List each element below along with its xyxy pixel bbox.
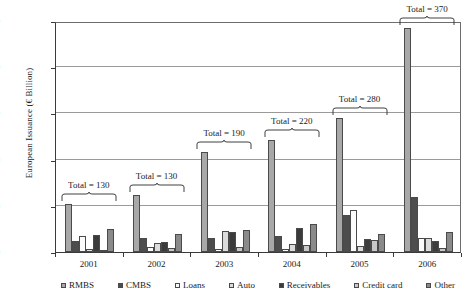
bar-2005-cmbs[interactable] xyxy=(343,215,350,252)
x-tick-mark-1 xyxy=(123,253,124,257)
legend-item-rmbs[interactable]: RMBS xyxy=(61,280,94,290)
x-axis-label-2003: 2003 xyxy=(189,259,259,269)
bar-2005-rmbs[interactable] xyxy=(336,118,343,252)
x-tick-mark-4 xyxy=(326,253,327,257)
bar-2004-rmbs[interactable] xyxy=(268,140,275,252)
bar-chart: European Issuance (€ Billion) 0501001502… xyxy=(0,0,469,301)
chart-legend: RMBSCMBSLoansAutoReceivablesCredit cardO… xyxy=(55,280,461,290)
annotation-brace-2003 xyxy=(196,140,252,149)
annotation-brace-2006 xyxy=(399,16,455,25)
bar-2006-credit-card[interactable] xyxy=(439,248,446,252)
bar-2006-auto[interactable] xyxy=(425,238,432,252)
legend-item-receivables[interactable]: Receivables xyxy=(279,280,330,290)
legend-label: Other xyxy=(434,280,455,290)
x-tick-mark-2 xyxy=(190,253,191,257)
x-axis-label-2004: 2004 xyxy=(257,259,327,269)
legend-label: Auto xyxy=(237,280,255,290)
bar-2005-other[interactable] xyxy=(378,234,385,252)
bar-2001-auto[interactable] xyxy=(86,249,93,252)
legend-label: RMBS xyxy=(69,280,94,290)
bar-2005-auto[interactable] xyxy=(357,246,364,252)
legend-swatch-icon-credit-card xyxy=(354,283,359,288)
x-tick-mark-3 xyxy=(258,253,259,257)
total-label-2005: Total = 280 xyxy=(320,94,400,104)
bar-2001-credit-card[interactable] xyxy=(100,250,107,252)
legend-item-cmbs[interactable]: CMBS xyxy=(118,280,151,290)
bar-2004-auto[interactable] xyxy=(289,244,296,252)
bar-2006-cmbs[interactable] xyxy=(411,197,418,252)
bar-2003-other[interactable] xyxy=(243,230,250,252)
bar-2004-other[interactable] xyxy=(310,224,317,252)
x-tick-mark-5 xyxy=(393,253,394,257)
bar-2001-other[interactable] xyxy=(107,229,114,252)
total-label-2003: Total = 190 xyxy=(184,128,264,138)
legend-item-other[interactable]: Other xyxy=(426,280,455,290)
bar-2003-rmbs[interactable] xyxy=(201,152,208,252)
bar-2004-cmbs[interactable] xyxy=(275,236,282,252)
x-axis-label-2005: 2005 xyxy=(325,259,395,269)
legend-item-loans[interactable]: Loans xyxy=(175,280,205,290)
bar-2006-other[interactable] xyxy=(446,232,453,252)
bar-2006-rmbs[interactable] xyxy=(404,28,411,252)
annotation-brace-2004 xyxy=(264,128,320,137)
legend-swatch-icon-other xyxy=(426,283,431,288)
annotation-brace-2001 xyxy=(61,192,117,201)
bar-2001-cmbs[interactable] xyxy=(72,241,79,252)
bar-2003-cmbs[interactable] xyxy=(208,238,215,252)
bar-2004-loans[interactable] xyxy=(282,249,289,252)
bar-2002-other[interactable] xyxy=(175,234,182,252)
total-label-2002: Total = 130 xyxy=(117,171,197,181)
bar-2005-credit-card[interactable] xyxy=(371,240,378,252)
bar-2005-loans[interactable] xyxy=(350,210,357,252)
legend-swatch-icon-auto xyxy=(229,283,234,288)
bar-group-2001 xyxy=(56,23,124,252)
bar-2003-credit-card[interactable] xyxy=(236,247,243,252)
bar-2006-loans[interactable] xyxy=(418,238,425,252)
total-label-2006: Total = 370 xyxy=(387,4,467,14)
x-tick-mark-0 xyxy=(55,253,56,257)
legend-swatch-icon-cmbs xyxy=(118,283,123,288)
annotation-brace-2005 xyxy=(332,106,388,115)
bar-group-2004 xyxy=(259,23,327,252)
x-axis-label-2002: 2002 xyxy=(122,259,192,269)
legend-label: CMBS xyxy=(126,280,151,290)
legend-label: Loans xyxy=(183,280,205,290)
bar-2002-credit-card[interactable] xyxy=(168,248,175,252)
legend-swatch-icon-rmbs xyxy=(61,283,66,288)
bar-2001-receivables[interactable] xyxy=(93,235,100,252)
legend-label: Receivables xyxy=(287,280,330,290)
bar-2002-auto[interactable] xyxy=(154,243,161,252)
bar-2006-receivables[interactable] xyxy=(432,241,439,252)
legend-label: Credit card xyxy=(362,280,402,290)
bar-2003-auto[interactable] xyxy=(222,231,229,252)
bar-2002-receivables[interactable] xyxy=(161,242,168,252)
total-label-2004: Total = 220 xyxy=(252,116,332,126)
bar-group-2006 xyxy=(394,23,462,252)
bar-2003-receivables[interactable] xyxy=(229,232,236,252)
x-axis-label-2001: 2001 xyxy=(54,259,124,269)
legend-swatch-icon-receivables xyxy=(279,283,284,288)
bar-2001-rmbs[interactable] xyxy=(65,204,72,252)
legend-swatch-icon-loans xyxy=(175,283,180,288)
annotation-brace-2002 xyxy=(129,183,185,192)
x-axis-label-2006: 2006 xyxy=(392,259,462,269)
x-tick-mark-end xyxy=(461,253,462,257)
y-axis-title: European Issuance (€ Billion) xyxy=(24,33,34,213)
bar-2005-receivables[interactable] xyxy=(364,239,371,252)
bar-2002-rmbs[interactable] xyxy=(133,195,140,252)
bar-2002-loans[interactable] xyxy=(147,247,154,252)
legend-item-credit-card[interactable]: Credit card xyxy=(354,280,402,290)
bar-group-2002 xyxy=(124,23,192,252)
bar-2004-credit-card[interactable] xyxy=(303,245,310,252)
legend-item-auto[interactable]: Auto xyxy=(229,280,255,290)
bar-2004-receivables[interactable] xyxy=(296,228,303,252)
total-label-2001: Total = 130 xyxy=(49,180,129,190)
bar-2001-loans[interactable] xyxy=(79,236,86,252)
bar-2003-loans[interactable] xyxy=(215,249,222,252)
bar-2002-cmbs[interactable] xyxy=(140,238,147,252)
bar-group-2005 xyxy=(327,23,395,252)
